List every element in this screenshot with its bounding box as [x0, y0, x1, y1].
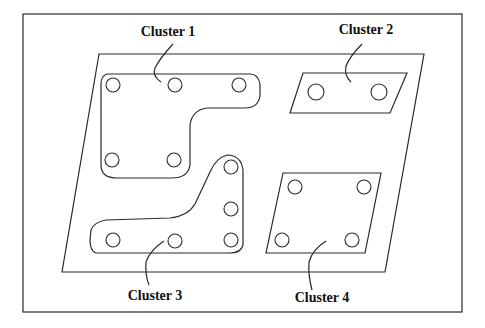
cluster-4-boundary [266, 173, 381, 253]
hole-icon [224, 233, 238, 247]
cluster-4-label: Cluster 4 [295, 290, 350, 305]
hole-icon [168, 78, 182, 92]
cluster-3-boundary [90, 155, 243, 253]
cluster-4-leader [309, 241, 326, 290]
cluster-1-leader [154, 44, 173, 82]
hole-icon [106, 233, 120, 247]
cluster-2-label: Cluster 2 [339, 22, 394, 37]
cluster-2: Cluster 2 [290, 22, 407, 113]
hole-icon [224, 202, 238, 216]
hole-icon [371, 84, 387, 100]
cluster-3-label: Cluster 3 [128, 288, 183, 303]
cluster-1: Cluster 1 [101, 24, 260, 178]
hole-icon [357, 180, 371, 194]
cluster-diagram: Cluster 1 Cluster 2 Cluster 3 Cluster 4 [0, 0, 485, 328]
cluster-4: Cluster 4 [266, 173, 381, 305]
hole-icon [288, 180, 302, 194]
hole-icon [232, 78, 246, 92]
hole-icon [224, 160, 238, 174]
cluster-1-label: Cluster 1 [141, 24, 196, 39]
hole-icon [167, 153, 181, 167]
outer-frame [23, 14, 462, 312]
cluster-2-leader [346, 44, 362, 82]
hole-icon [106, 78, 120, 92]
hole-icon [275, 233, 289, 247]
cluster-3-leader [146, 241, 164, 285]
hole-icon [105, 153, 119, 167]
hole-icon [345, 233, 359, 247]
hole-icon [308, 84, 324, 100]
hole-icon [168, 234, 182, 248]
